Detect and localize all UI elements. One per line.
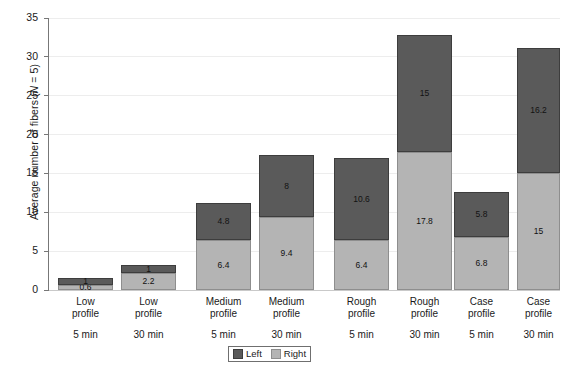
- x-label-profile-line2: profile: [190, 308, 257, 320]
- bar-segment-left[interactable]: 5.8: [454, 192, 509, 237]
- bar-segment-left[interactable]: 1: [121, 265, 176, 273]
- bar-segment-right[interactable]: 2.2: [121, 273, 176, 290]
- bar-value-label: 8: [284, 182, 289, 191]
- bar-value-label: 17.8: [416, 217, 433, 226]
- x-label-time: 30 min: [115, 329, 182, 341]
- bar-value-label: 1: [146, 265, 151, 274]
- x-axis-baseline: [48, 290, 560, 291]
- x-label-profile-line2: profile: [511, 308, 565, 320]
- x-axis-label: Mediumprofile5 min: [190, 296, 257, 341]
- legend-label-right: Right: [284, 348, 306, 359]
- bar-value-label: 6.4: [218, 261, 230, 270]
- x-label-profile-line1: Case: [448, 296, 515, 308]
- tick-mark: [44, 251, 49, 252]
- bar-group[interactable]: 2.21: [121, 18, 176, 290]
- bar-group[interactable]: 1516.2: [517, 18, 560, 290]
- bar-segment-left[interactable]: 10.6: [334, 158, 389, 240]
- x-axis-label: Roughprofile5 min: [328, 296, 395, 341]
- x-label-profile-line1: Case: [511, 296, 565, 308]
- bar-segment-right[interactable]: 17.8: [397, 152, 452, 290]
- y-axis-title-suffix: = 5): [28, 64, 40, 86]
- x-axis-label: Caseprofile5 min: [448, 296, 515, 341]
- x-label-profile-line2: profile: [115, 308, 182, 320]
- bar-group[interactable]: 6.44.8: [196, 18, 251, 290]
- x-label-profile-line1: Medium: [190, 296, 257, 308]
- x-label-profile-line2: profile: [52, 308, 119, 320]
- bar-value-label: 9.4: [281, 249, 293, 258]
- y-tick-label: 20: [6, 128, 38, 140]
- legend: Left Right: [228, 346, 311, 362]
- x-label-time: 5 min: [190, 329, 257, 341]
- x-label-profile-line2: profile: [448, 308, 515, 320]
- tick-mark: [44, 290, 49, 291]
- x-label-profile-line2: profile: [328, 308, 395, 320]
- bar-value-label: 4.8: [218, 217, 230, 226]
- x-axis-label: Mediumprofile30 min: [253, 296, 320, 341]
- bar-value-label: 6.8: [476, 259, 488, 268]
- legend-swatch-left-icon: [233, 349, 243, 359]
- bar-value-label: 2.2: [143, 277, 155, 286]
- x-label-time: 5 min: [52, 329, 119, 341]
- x-label-profile-line1: Medium: [253, 296, 320, 308]
- tick-mark: [44, 95, 49, 96]
- x-label-profile-line1: Rough: [328, 296, 395, 308]
- bar-segment-left[interactable]: 8: [259, 155, 314, 217]
- bar-chart: Average number of fibers (N = 5) 0510152…: [0, 0, 565, 376]
- y-tick-label: 15: [6, 166, 38, 178]
- bar-value-label: 5.8: [476, 210, 488, 219]
- bar-segment-right[interactable]: 9.4: [259, 217, 314, 290]
- x-label-profile-line2: profile: [253, 308, 320, 320]
- bar-segment-right[interactable]: 15: [517, 173, 560, 290]
- x-label-time: 5 min: [328, 329, 395, 341]
- bar-group[interactable]: 6.410.6: [334, 18, 389, 290]
- y-tick-label: 30: [6, 50, 38, 62]
- legend-item-left: Left: [233, 348, 262, 359]
- bar-value-label: 15: [420, 89, 429, 98]
- bar-segment-left[interactable]: 4.8: [196, 203, 251, 240]
- tick-mark: [44, 173, 49, 174]
- x-label-time: 5 min: [448, 329, 515, 341]
- bar-value-label: 16.2: [530, 106, 547, 115]
- bar-value-label: 6.4: [356, 261, 368, 270]
- y-tick-label: 35: [6, 11, 38, 23]
- tick-mark: [44, 212, 49, 213]
- y-tick-label: 5: [6, 244, 38, 256]
- bar-segment-right[interactable]: 6.4: [334, 240, 389, 290]
- legend-item-right: Right: [271, 348, 306, 359]
- bar-segment-right[interactable]: 0.6: [58, 285, 113, 290]
- y-axis-title-prefix: Average number of fibers (: [28, 93, 40, 220]
- y-tick-label: 10: [6, 205, 38, 217]
- plot-area: 05101520253035 0.612.216.44.89.486.410.6…: [48, 18, 560, 290]
- bar-value-label: 1: [83, 277, 88, 286]
- bar-segment-right[interactable]: 6.4: [196, 240, 251, 290]
- bar-segment-left[interactable]: 16.2: [517, 48, 560, 174]
- bar-group[interactable]: 9.48: [259, 18, 314, 290]
- tick-mark: [44, 18, 49, 19]
- x-axis-label: Lowprofile30 min: [115, 296, 182, 341]
- bar-segment-left[interactable]: 1: [58, 278, 113, 286]
- legend-swatch-right-icon: [271, 349, 281, 359]
- tick-mark: [44, 134, 49, 135]
- bar-group[interactable]: 6.85.8: [454, 18, 509, 290]
- x-label-time: 30 min: [511, 329, 565, 341]
- x-label-profile-line1: Low: [115, 296, 182, 308]
- bar-segment-right[interactable]: 6.8: [454, 237, 509, 290]
- tick-mark: [44, 56, 49, 57]
- bar-value-label: 10.6: [353, 195, 370, 204]
- bar-value-label: 15: [534, 227, 543, 236]
- x-label-profile-line1: Low: [52, 296, 119, 308]
- y-tick-label: 0: [6, 283, 38, 295]
- bar-group[interactable]: 0.61: [58, 18, 113, 290]
- bar-group[interactable]: 17.815: [397, 18, 452, 290]
- bar-segment-left[interactable]: 15: [397, 35, 452, 152]
- legend-label-left: Left: [246, 348, 262, 359]
- x-axis-label: Caseprofile30 min: [511, 296, 565, 341]
- y-tick-label: 25: [6, 89, 38, 101]
- y-axis-line: [48, 18, 49, 290]
- x-axis-label: Lowprofile5 min: [52, 296, 119, 341]
- x-label-time: 30 min: [253, 329, 320, 341]
